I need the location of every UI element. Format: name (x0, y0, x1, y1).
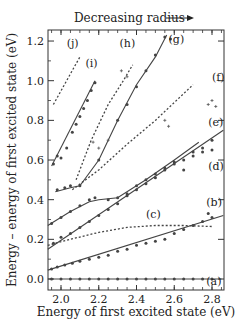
data-point (173, 161, 176, 164)
data-point (63, 264, 66, 267)
data-point (107, 208, 110, 211)
y-axis-ticks: 0.00.20.40.60.81.01.2 (27, 35, 225, 286)
data-point (88, 198, 91, 201)
data-point (88, 220, 91, 223)
data-point (192, 151, 195, 154)
series-line (52, 81, 95, 166)
data-point-plus (120, 69, 123, 72)
y-tick-label: 0.6 (27, 154, 45, 167)
data-point (163, 238, 166, 241)
arrowhead-icon (187, 15, 194, 21)
data-point (135, 244, 138, 247)
data-point (163, 36, 166, 39)
data-point (116, 278, 119, 281)
data-point (56, 155, 59, 158)
data-point (60, 278, 63, 281)
data-point (182, 168, 185, 171)
data-point-plus (167, 125, 170, 128)
data-point (211, 216, 214, 219)
data-point (154, 240, 157, 243)
series-line (76, 65, 133, 180)
chart: Decreasing radius 2.02.22.42.62.8 0.00.2… (0, 0, 238, 329)
data-point (107, 278, 110, 281)
data-point (135, 184, 138, 187)
data-point (154, 172, 157, 175)
data-point (78, 115, 81, 118)
data-point (50, 222, 53, 225)
data-point (192, 278, 195, 281)
series-label: (f) (212, 71, 225, 84)
data-point (144, 178, 147, 181)
data-point (154, 53, 157, 56)
data-point (78, 204, 81, 207)
data-point (163, 166, 166, 169)
x-axis-ticks: 2.02.22.42.62.8 (52, 30, 222, 306)
series-label: (d) (208, 160, 224, 173)
data-point (69, 232, 72, 235)
data-point (126, 248, 129, 251)
data-point (52, 242, 55, 245)
data-point (86, 99, 89, 102)
series-label: (j) (67, 37, 79, 50)
data-point (78, 260, 81, 263)
data-point (97, 256, 100, 259)
data-point (144, 242, 147, 245)
data-point (126, 278, 129, 281)
series-line (53, 57, 80, 105)
data-point (116, 119, 119, 122)
data-series (48, 35, 224, 280)
data-point (97, 278, 100, 281)
data-point (144, 182, 147, 185)
data-point (69, 278, 72, 281)
data-point (50, 268, 53, 271)
y-tick-label: 0.2 (27, 233, 45, 246)
data-point (163, 278, 166, 281)
series-label: (c) (146, 208, 161, 221)
data-point (126, 103, 129, 106)
y-tick-label: 1.0 (27, 75, 45, 88)
data-point (135, 278, 138, 281)
data-point (154, 278, 157, 281)
y-tick-label: 0.0 (27, 273, 45, 286)
data-point (182, 228, 185, 231)
data-point (211, 139, 214, 142)
series-line (55, 35, 166, 192)
data-point (56, 266, 59, 269)
data-point-plus (163, 119, 166, 122)
data-point-plus (207, 103, 210, 106)
series-label: (b) (206, 196, 222, 209)
data-point (75, 123, 78, 126)
y-tick-label: 0.4 (27, 194, 45, 207)
data-point (71, 262, 74, 265)
data-point (116, 250, 119, 253)
data-point (69, 210, 72, 213)
data-point (97, 159, 100, 162)
data-point-plus (97, 147, 100, 150)
series-label: (i) (86, 57, 98, 70)
y-axis-label: Energy – energy of first excited state (… (5, 33, 19, 287)
data-point (60, 216, 63, 219)
data-point (82, 107, 85, 110)
data-point (135, 188, 138, 191)
data-point (144, 278, 147, 281)
data-point (173, 278, 176, 281)
data-point-plus (92, 141, 95, 144)
data-point (78, 184, 81, 187)
data-point-plus (214, 105, 217, 108)
series-line (72, 85, 193, 190)
data-point (135, 85, 138, 88)
data-point (144, 69, 147, 72)
data-point (60, 157, 63, 160)
data-point (88, 278, 91, 281)
data-point (93, 196, 96, 199)
data-point (65, 147, 68, 150)
data-point (126, 192, 129, 195)
decreasing-radius-annotation: Decreasing radius (74, 11, 194, 25)
data-point (60, 236, 63, 239)
data-point (154, 176, 157, 179)
data-point (201, 151, 204, 154)
data-point (50, 278, 53, 281)
data-point-plus (126, 75, 129, 78)
y-tick-label: 0.8 (27, 114, 45, 127)
data-point (88, 258, 91, 261)
